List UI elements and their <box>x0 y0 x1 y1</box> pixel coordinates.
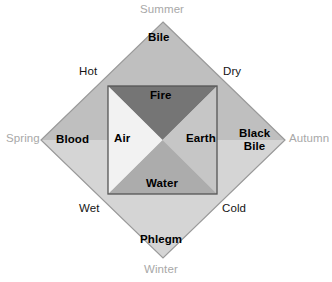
inner-square-group <box>108 86 217 194</box>
humours-elements-diagram: Summer Autumn Winter Spring Hot Dry Cold… <box>0 0 332 282</box>
diagram-svg <box>0 0 332 282</box>
